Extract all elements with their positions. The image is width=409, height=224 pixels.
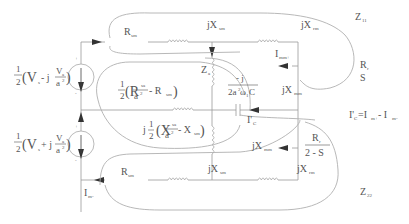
svg-text:rm: rm [309,170,315,175]
arrow-imm-icon [209,47,215,57]
svg-text:a: a [208,71,211,76]
svg-text:S: S [360,72,366,83]
imm-plus-label: I mm+ [275,48,290,60]
svg-text:a: a [62,72,65,77]
equivalent-circuit-diagram: 1 2 (V s - j V a a 2 ) + - 1 2 (V s + j … [0,0,409,224]
inductor-middle-x [173,108,193,110]
svg-text:- R: - R [149,85,162,96]
top-source-label: 1 2 (V s - j V a a 2 ) + - [14,56,78,96]
svg-text:R: R [121,166,128,177]
loop-z11-inner [110,46,240,54]
svg-text:(V: (V [22,70,37,86]
svg-text:mm+: mm+ [279,55,290,60]
inductor-top-jxsm [168,40,188,42]
svg-text:m-: m- [88,194,94,199]
svg-text:a: a [165,130,169,140]
inductor-top-jxrm [258,40,278,42]
svg-text:- j: - j [41,72,50,83]
top-jxmm-label: jX mm [281,84,302,96]
svg-text:a: a [62,139,65,144]
arrow-rotor-bottom-icon [278,145,288,151]
svg-text:R: R [360,59,367,70]
svg-text:m-: m- [392,116,398,121]
svg-text:mm: mm [264,147,272,152]
svg-text:a: a [134,91,138,101]
svg-text:C: C [249,87,255,97]
svg-text:1: 1 [16,64,21,74]
svg-text:mm: mm [294,91,302,96]
svg-text:jX: jX [251,140,263,151]
svg-text:jX: jX [300,19,312,30]
svg-text:2a: 2a [228,87,237,97]
loop-z11 [109,13,354,89]
svg-text:+: + [75,56,78,61]
svg-text:2: 2 [149,131,154,141]
svg-text:rm: rm [313,26,319,31]
svg-text:jX: jX [207,163,219,174]
z11-label: Z 11 [355,11,367,23]
bottom-rsm-label: R sm [121,166,134,178]
svg-text:R: R [124,26,131,37]
svg-text:j: j [142,124,146,135]
svg-text:C: C [253,121,257,126]
svg-text:): ) [66,70,71,86]
svg-text:m+: m+ [371,116,378,121]
inductor-bottom-jxmm [212,126,214,154]
arrow-top-current-icon [92,39,102,45]
svg-text:-: - [75,158,77,163]
svg-text:sm: sm [219,26,225,31]
top-rotor-label: R r S [360,59,369,83]
svg-text:): ) [66,137,71,153]
arrow-im-minus-icon [94,177,104,183]
top-jxrm-label: jX rm [300,19,319,31]
bottom-rotor-label: R r 2 - S [305,132,330,158]
svg-text:R: R [312,132,319,143]
za-reactance-label: j 1 2 (X sa a 2 - X sm ) [142,119,205,141]
svg-text:jX: jX [296,163,308,174]
inductor-top-jxmm [212,58,214,86]
za-label: Z a [201,64,211,76]
inductor-bottom-jxsm [168,178,188,180]
svg-text:Z: Z [201,64,207,75]
za-resistance-label: 1 2 (R sa a 2 - R sm ) [118,79,178,101]
bottom-jxmm-label: jX mm [251,140,272,152]
svg-text:I': I' [247,114,252,125]
svg-text:sm: sm [220,170,226,175]
top-jxsm-label: jX sm [206,19,225,31]
svg-text:Z: Z [360,186,366,197]
svg-text:sa: sa [141,83,146,88]
svg-text:s: s [38,147,40,152]
svg-text:22: 22 [367,193,373,198]
svg-text:+: + [75,124,78,129]
svg-text:=I: =I [358,109,367,120]
ic-relation-label: I' C =I m+ - I m- [349,109,398,121]
svg-text:- X: - X [178,124,192,135]
inductor-bottom-jxrm [258,178,278,180]
svg-text:- I: - I [378,109,387,120]
svg-text:1: 1 [120,79,125,89]
svg-text:): ) [200,123,205,139]
svg-text:11: 11 [362,18,367,23]
svg-text:jX: jX [206,19,218,30]
svg-text:jX: jX [281,84,293,95]
svg-text:1: 1 [149,119,154,129]
svg-text:(V: (V [22,137,37,153]
svg-text:2: 2 [171,130,174,135]
svg-text:2: 2 [120,91,125,101]
svg-text:sa: sa [172,122,177,127]
voltage-source-top [68,64,94,92]
capacitor [236,104,240,116]
bottom-source-label: 1 2 (V s + j V a a 2 ) + - [14,124,78,163]
bottom-jxrm-label: jX rm [296,163,315,175]
z22-label: Z 22 [360,186,373,198]
im-minus-label: I m- [84,187,94,199]
svg-text:r: r [319,139,321,144]
svg-text:sm: sm [131,33,137,38]
svg-text:+ j: + j [41,139,52,150]
top-rsm-label: R sm [124,26,137,38]
voltage-source-bottom [68,112,94,159]
capacitor-label: - j 2a 2 ω 1 C [228,73,258,98]
svg-text:I: I [275,48,278,59]
svg-text:a: a [56,145,60,155]
svg-text:2 - S: 2 - S [305,147,324,158]
